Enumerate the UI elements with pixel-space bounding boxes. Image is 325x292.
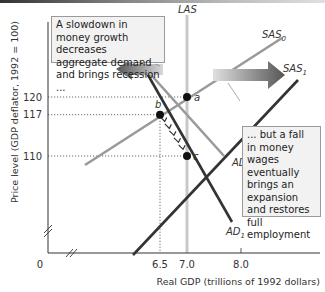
x-tick-label: 7.0: [179, 259, 195, 270]
curve-label-subscript: 0: [282, 35, 287, 43]
adjustment-arrow: [165, 124, 172, 129]
x-tick-label: 0: [37, 259, 43, 270]
point-b: [156, 111, 164, 119]
curve-label-ad1: AD1: [225, 226, 245, 240]
adjustment-arrow: [169, 131, 176, 136]
x-axis-title: Real GDP (trillions of 1992 dollars): [157, 276, 321, 287]
curve-label-sas0: SAS0: [262, 29, 287, 43]
point-a: [183, 93, 191, 101]
point-label-c: c: [193, 151, 199, 162]
adjustment-arrow: [174, 138, 181, 143]
y-tick-label: 110: [23, 151, 42, 162]
point-label-b: b: [155, 99, 161, 110]
y-tick-label: 120: [23, 92, 42, 103]
note-right-pointer: [228, 83, 240, 101]
adjustment-arrow: [179, 145, 186, 150]
curve-label-subscript: 1: [241, 232, 245, 240]
x-tick-label: 8.0: [233, 259, 249, 270]
annotation-left: A slowdown in money growth decreases agg…: [51, 16, 165, 63]
shift-right-arrow: [213, 61, 285, 89]
x-tick-label: 6.5: [152, 259, 168, 270]
y-axis-title: Price level (GDP deflator, 1992 = 100): [9, 21, 20, 203]
point-label-a: a: [194, 92, 200, 103]
y-tick-label: 117: [23, 109, 42, 120]
curve-label-las: LAS: [178, 4, 197, 15]
annotation-right: ... but a fall in money wages eventually…: [242, 126, 321, 217]
point-c: [183, 152, 191, 160]
curve-label-subscript: 1: [303, 69, 307, 77]
curve-label-sas1: SAS1: [283, 63, 307, 77]
